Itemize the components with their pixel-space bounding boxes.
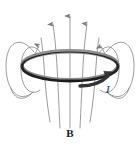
magnetic-field-label: B [0, 128, 140, 139]
magnetic-field-loop-figure: B I [0, 0, 140, 151]
field-loop-right [106, 42, 134, 96]
field-line-axial-inner-right [80, 24, 87, 128]
field-line-axial-inner-left [53, 24, 60, 128]
current-label: I [106, 84, 110, 95]
field-loop-left [6, 42, 34, 96]
